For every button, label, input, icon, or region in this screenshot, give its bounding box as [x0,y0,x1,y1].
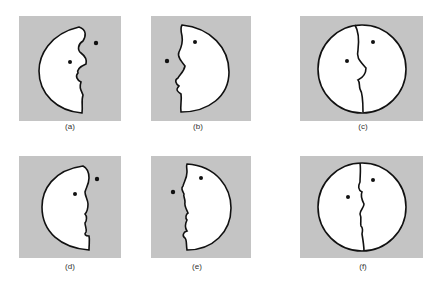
caption-c: (c) [353,122,373,131]
panel-a [19,16,121,121]
face-crescent-right-icon [151,16,251,121]
panel-b [151,16,251,121]
face-crescent-right-angular-icon [151,156,251,258]
panel-e [151,156,251,258]
face-crescent-left-icon [19,16,121,121]
panel-c [300,16,423,121]
panel-f [300,156,423,258]
caption-f: (f) [353,262,373,271]
caption-a: (a) [60,122,80,131]
caption-d: (d) [60,262,80,271]
panel-d [19,156,121,258]
face-circle-split-icon [300,16,423,121]
caption-b: (b) [188,122,208,131]
face-crescent-left-angular-icon [19,156,121,258]
face-circle-split-angular-icon [300,156,423,258]
caption-e: (e) [187,262,207,271]
